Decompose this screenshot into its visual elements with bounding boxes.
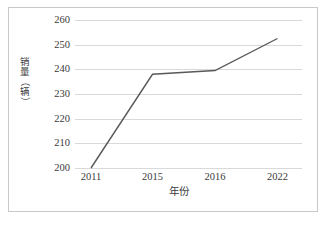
x-tick-label: 2015 bbox=[142, 172, 163, 183]
chart-container: 200210220230240250260 2011201520162022 年… bbox=[0, 0, 329, 227]
x-tick-label: 2022 bbox=[267, 172, 288, 183]
y-axis-title-char: ） bbox=[20, 95, 30, 109]
y-axis-title-char: 销 bbox=[18, 57, 32, 67]
x-axis-title-text: 年份 bbox=[169, 186, 189, 197]
x-axis-tick-labels: 2011201520162022 bbox=[0, 172, 329, 186]
y-axis-title-char: （ bbox=[20, 75, 30, 89]
y-axis-title: 销量（辆） bbox=[18, 57, 32, 107]
series-polyline bbox=[91, 39, 278, 169]
x-tick-label: 2016 bbox=[205, 172, 226, 183]
x-tick-label: 2011 bbox=[81, 172, 102, 183]
x-axis-title: 年份 bbox=[0, 187, 329, 198]
